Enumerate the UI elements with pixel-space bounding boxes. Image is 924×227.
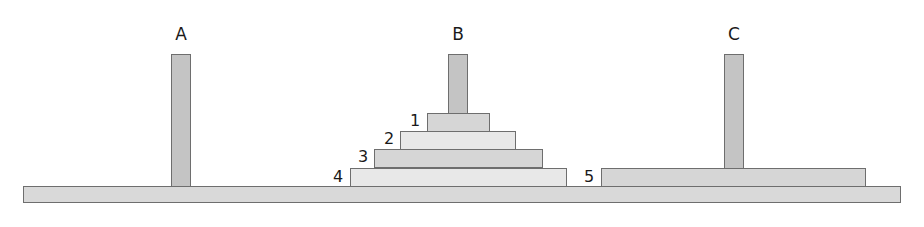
tower-of-hanoi-diagram: A B C 1 2 3 4 5	[0, 0, 924, 227]
disc-2	[400, 131, 516, 150]
peg-label-c: C	[719, 24, 749, 44]
disc-1	[427, 113, 490, 132]
disc-3	[374, 149, 543, 168]
base-platform	[23, 186, 901, 203]
disc-5	[601, 168, 866, 187]
disc-label-5: 5	[584, 168, 594, 186]
disc-label-1: 1	[410, 112, 420, 130]
peg-a	[171, 54, 191, 187]
disc-label-2: 2	[384, 130, 394, 148]
peg-label-a: A	[166, 24, 196, 44]
disc-4	[350, 168, 567, 187]
disc-label-3: 3	[358, 148, 368, 166]
peg-label-b: B	[443, 24, 473, 44]
disc-label-4: 4	[333, 168, 343, 186]
